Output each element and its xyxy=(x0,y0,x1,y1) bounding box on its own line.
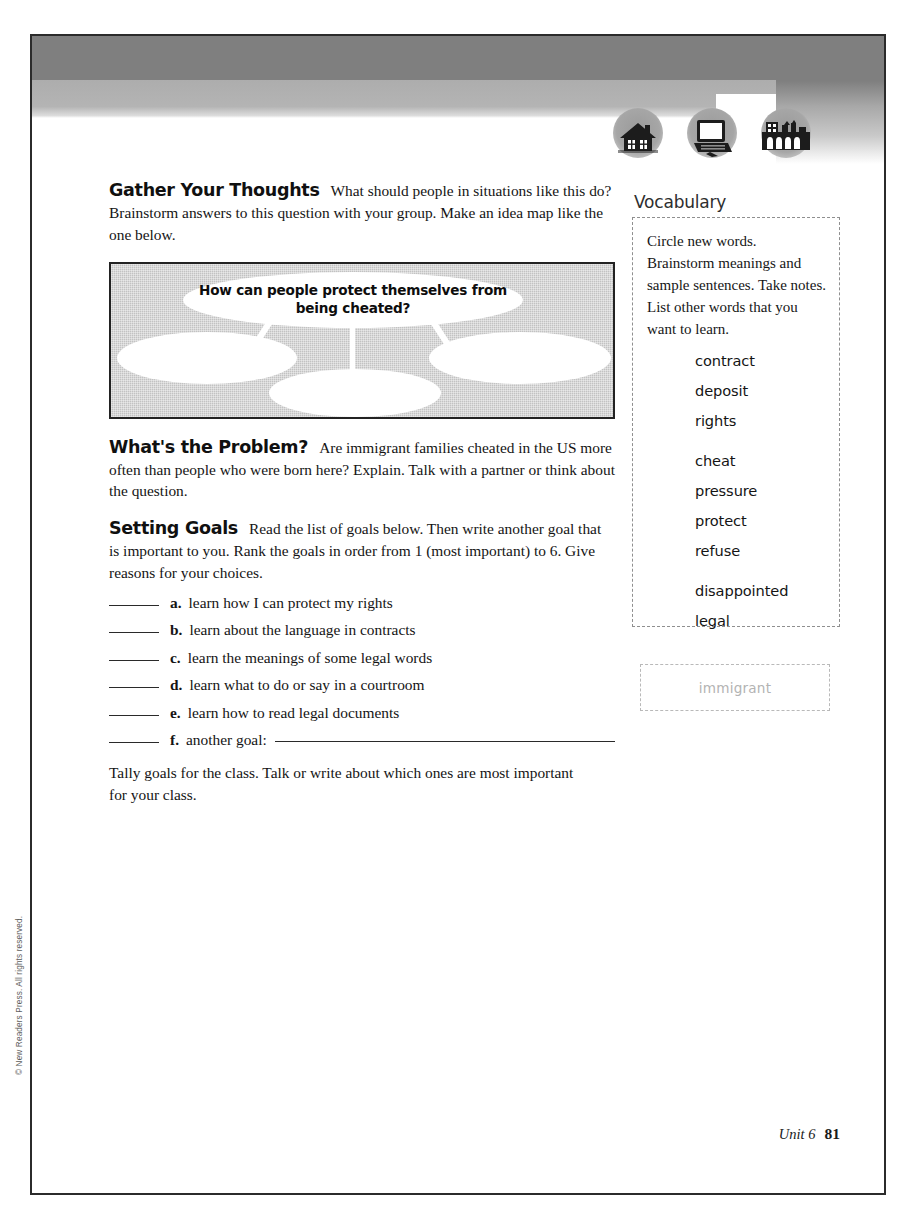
main-content-column: Gather Your ThoughtsWhat should people i… xyxy=(109,180,615,806)
section-heading: Setting Goals xyxy=(109,518,238,538)
goal-text: another goal: xyxy=(186,731,267,749)
section-heading: What's the Problem? xyxy=(109,437,308,457)
idea-map-empty-bubble-bottom[interactable] xyxy=(269,369,441,417)
idea-map-empty-bubble-right[interactable] xyxy=(429,332,611,384)
vocabulary-instructions: Circle new words. Brainstorm meanings an… xyxy=(647,231,827,340)
vocabulary-note-text: immigrant xyxy=(699,680,771,696)
vocabulary-word-pressure[interactable]: pressure xyxy=(695,482,827,499)
rank-blank-b[interactable] xyxy=(109,632,159,633)
goal-item-b: b. learn about the language in contracts xyxy=(109,621,615,639)
page-number: 81 xyxy=(825,1125,841,1142)
goal-letter: d. xyxy=(170,676,182,694)
another-goal-write-in-line[interactable] xyxy=(275,729,615,743)
vocabulary-word-legal[interactable]: legal xyxy=(695,612,827,629)
idea-map-connector-middle xyxy=(350,320,355,374)
vocabulary-word-disappointed[interactable]: disappointed xyxy=(695,582,827,599)
goal-item-f: f. another goal: xyxy=(109,731,615,749)
vocabulary-word-cheat[interactable]: cheat xyxy=(695,452,827,469)
unit-label: Unit 6 xyxy=(779,1126,816,1142)
goal-letter: a. xyxy=(170,594,182,612)
goal-letter: f. xyxy=(170,731,179,749)
copyright-notice: © New Readers Press. All rights reserved… xyxy=(15,916,24,1075)
goal-text: learn how I can protect my rights xyxy=(189,594,393,612)
vocabulary-word-contract[interactable]: contract xyxy=(695,352,827,369)
goal-letter: e. xyxy=(170,704,181,722)
idea-map-diagram: How can people protect themselves from b… xyxy=(109,262,615,419)
vocabulary-word-refuse[interactable]: refuse xyxy=(695,542,827,559)
vocabulary-word-rights[interactable]: rights xyxy=(695,412,827,429)
goal-text: learn what to do or say in a courtroom xyxy=(189,676,424,694)
goal-item-a: a. learn how I can protect my rights xyxy=(109,594,615,612)
vocabulary-title: Vocabulary xyxy=(634,192,840,212)
section-gather-your-thoughts: Gather Your ThoughtsWhat should people i… xyxy=(109,180,615,246)
idea-map-center-text: How can people protect themselves from b… xyxy=(183,282,523,317)
vocabulary-note-box[interactable]: immigrant xyxy=(640,664,830,711)
section-heading: Gather Your Thoughts xyxy=(109,180,320,200)
rank-blank-c[interactable] xyxy=(109,660,159,661)
computer-icon xyxy=(684,108,740,164)
goal-letter: b. xyxy=(170,621,182,639)
vocabulary-word-protect[interactable]: protect xyxy=(695,512,827,529)
idea-map-empty-bubble-left[interactable] xyxy=(117,332,297,384)
goal-text: learn the meanings of some legal words xyxy=(188,649,432,667)
goal-item-c: c. learn the meanings of some legal word… xyxy=(109,649,615,667)
goal-item-d: d. learn what to do or say in a courtroo… xyxy=(109,676,615,694)
section-whats-the-problem: What's the Problem?Are immigrant familie… xyxy=(109,437,615,503)
house-icon xyxy=(610,108,666,164)
vocabulary-box: Circle new words. Brainstorm meanings an… xyxy=(632,217,840,627)
goal-item-e: e. learn how to read legal documents xyxy=(109,704,615,722)
rank-blank-d[interactable] xyxy=(109,687,159,688)
rank-blank-f[interactable] xyxy=(109,742,159,743)
goal-letter: c. xyxy=(170,649,181,667)
goal-text: learn about the language in contracts xyxy=(189,621,415,639)
page-footer: Unit 681 xyxy=(779,1125,840,1143)
tally-instructions: Tally goals for the class. Talk or write… xyxy=(109,762,587,806)
section-setting-goals: Setting GoalsRead the list of goals belo… xyxy=(109,518,615,584)
goal-text: learn how to read legal documents xyxy=(188,704,400,722)
goals-list: a. learn how I can protect my rights b. … xyxy=(109,594,615,750)
vocabulary-sidebar: Vocabulary Circle new words. Brainstorm … xyxy=(632,192,840,711)
rank-blank-a[interactable] xyxy=(109,605,159,606)
rank-blank-e[interactable] xyxy=(109,715,159,716)
vocabulary-word-deposit[interactable]: deposit xyxy=(695,382,827,399)
idea-map-center-bubble: How can people protect themselves from b… xyxy=(183,272,523,328)
page-frame: Gather Your ThoughtsWhat should people i… xyxy=(30,34,886,1195)
